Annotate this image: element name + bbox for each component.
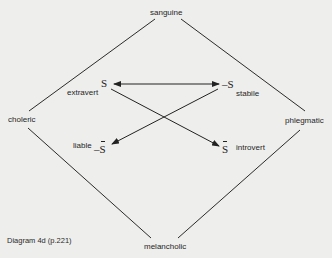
label-stabile: stabile: [236, 89, 259, 99]
label-introvert: introvert: [236, 143, 265, 153]
s-bar-letter: S: [100, 143, 106, 155]
symbol-neg-s-bar: –S: [94, 143, 106, 155]
label-liable: liable: [73, 141, 92, 151]
label-sanguine: sanguine: [150, 8, 182, 18]
temperament-diagram: sanguine choleric phlegmatic melancholic…: [0, 0, 332, 258]
symbol-neg-s: –S: [222, 78, 234, 90]
s-bar-letter: S: [222, 143, 228, 155]
label-phlegmatic: phlegmatic: [285, 116, 324, 126]
s-letter: S: [228, 78, 234, 90]
arrow-neg-s-neg-s-bar: [112, 89, 218, 144]
diagram-lines: [0, 0, 332, 258]
label-extravert: extravert: [67, 88, 98, 98]
symbol-s: S: [101, 77, 107, 89]
diagram-caption: Diagram 4d (p.221): [7, 236, 72, 245]
symbol-s-bar: S: [222, 143, 228, 155]
label-choleric: choleric: [8, 115, 36, 125]
label-melancholic: melancholic: [144, 242, 186, 252]
arrow-s-s-bar: [111, 89, 219, 146]
